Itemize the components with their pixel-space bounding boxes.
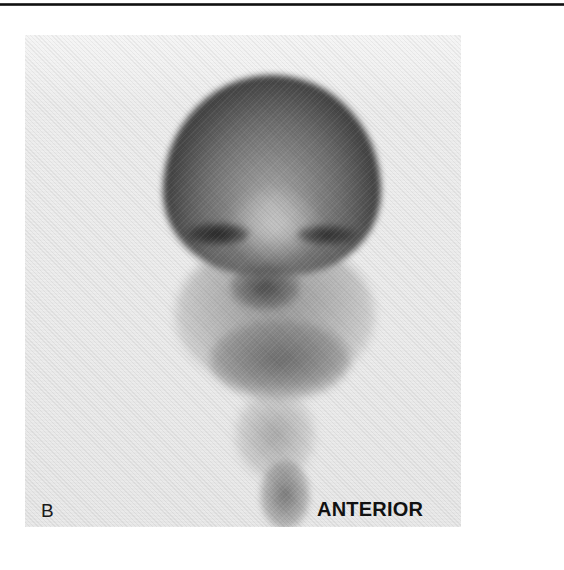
view-orientation-label: ANTERIOR xyxy=(317,498,423,521)
frontal-low-uptake xyxy=(225,185,325,265)
top-rule-divider xyxy=(0,3,564,6)
scintigraphy-image-panel: B ANTERIOR xyxy=(25,35,461,527)
left-orbit-uptake xyxy=(187,223,249,245)
nasal-uptake xyxy=(230,265,300,310)
mandible-uptake xyxy=(210,320,350,400)
panel-letter-label: B xyxy=(41,500,54,522)
thyroid-uptake xyxy=(260,460,310,527)
right-orbit-uptake xyxy=(297,225,357,245)
